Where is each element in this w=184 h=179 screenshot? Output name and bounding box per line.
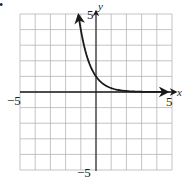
x-min-label: −5 <box>7 93 21 108</box>
y-max-label: 5 <box>87 7 94 22</box>
graph: • y 5 x 5 −5 −5 <box>0 0 184 179</box>
y-min-label: −5 <box>77 165 91 179</box>
x-axis-label: x <box>176 86 182 98</box>
x-max-label: 5 <box>166 94 173 109</box>
bullet-marker: • <box>0 0 3 12</box>
y-axis-label: y <box>97 0 103 12</box>
exponential-curve <box>79 15 168 92</box>
